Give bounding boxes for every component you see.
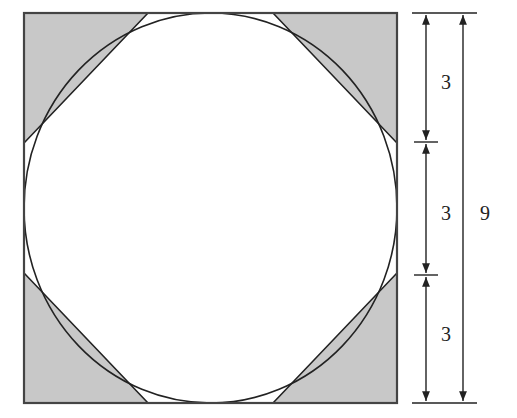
segment-label-2: 3 <box>441 202 451 224</box>
geometry-diagram: 3 3 3 9 <box>0 0 517 418</box>
total-label: 9 <box>480 202 490 224</box>
segment-label-1: 3 <box>441 71 451 93</box>
segment-label-3: 3 <box>441 323 451 345</box>
shaded-corners <box>24 13 397 403</box>
